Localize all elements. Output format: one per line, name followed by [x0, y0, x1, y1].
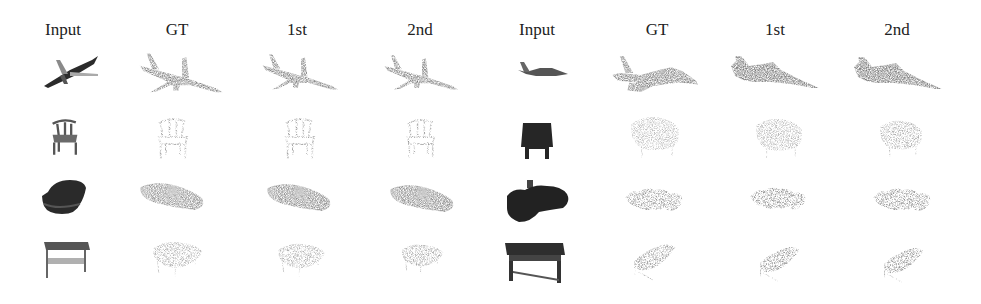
first-stage-golf-cart-point-cloud: [749, 183, 809, 215]
second-stage-bench-table-point-cloud: [880, 246, 926, 284]
first-stage-bench-table-point-cloud: [756, 244, 802, 284]
first-stage-table-point-cloud: [272, 242, 330, 278]
column-label-input-left: Input: [13, 20, 113, 40]
first-stage-armchair-point-cloud: [752, 116, 806, 160]
input-car: [40, 178, 88, 218]
first-stage-car-point-cloud: [264, 180, 334, 214]
gt-fighter-jet-point-cloud: [610, 54, 702, 94]
second-stage-golf-cart-point-cloud: [872, 183, 934, 217]
column-label-1st-right: 1st: [725, 20, 825, 40]
input-golf-cart: [503, 178, 571, 224]
gt-armchair-point-cloud: [628, 114, 682, 160]
column-label-input-right: Input: [487, 20, 587, 40]
input-bench-table: [503, 241, 567, 285]
input-airplane: [40, 50, 100, 90]
gt-table-point-cloud: [146, 240, 208, 278]
input-chair: [48, 114, 82, 160]
column-label-1st-left: 1st: [247, 20, 347, 40]
results-figure: Input GT 1st 2nd Input GT 1st 2nd: [0, 0, 981, 304]
second-stage-table-point-cloud: [394, 243, 450, 275]
gt-chair-point-cloud: [153, 116, 193, 160]
gt-airplane-point-cloud: [132, 50, 232, 94]
column-label-2nd-left: 2nd: [370, 20, 470, 40]
column-label-gt-right: GT: [607, 20, 707, 40]
second-stage-chair-point-cloud: [402, 117, 440, 159]
gt-golf-cart-point-cloud: [624, 183, 686, 217]
column-label-gt-left: GT: [127, 20, 227, 40]
input-armchair: [519, 121, 555, 161]
column-label-2nd-right: 2nd: [847, 20, 947, 40]
input-fighter-jet: [516, 60, 570, 82]
second-stage-car-point-cloud: [387, 182, 457, 214]
first-stage-fighter-jet-point-cloud: [731, 54, 819, 90]
first-stage-airplane-point-cloud: [258, 51, 344, 91]
second-stage-fighter-jet-point-cloud: [854, 55, 942, 91]
gt-car-point-cloud: [137, 180, 207, 212]
gt-bench-table-point-cloud: [630, 240, 678, 284]
input-table: [42, 240, 92, 280]
second-stage-armchair-point-cloud: [876, 118, 926, 158]
second-stage-airplane-point-cloud: [380, 52, 464, 91]
first-stage-chair-point-cloud: [280, 116, 320, 160]
